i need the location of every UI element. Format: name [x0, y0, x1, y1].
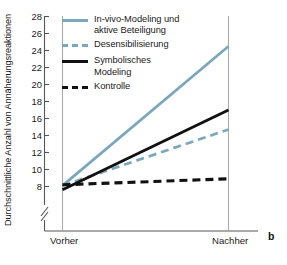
legend-label: Kontrolle	[94, 81, 130, 92]
legend-label-line: aktive Beteiligung	[94, 25, 179, 36]
legend-swatch-dashed-black-icon	[62, 82, 88, 94]
figure-panel: Durchschnittliche Anzahl von Annäherungs…	[0, 0, 287, 265]
y-axis-break-icon	[41, 207, 48, 221]
legend-swatch-solid-black-icon	[62, 56, 88, 68]
legend-label-line: Modeling	[94, 67, 151, 78]
legend-item-in-vivo-modeling: In-vivo-Modeling und aktive Beteiligung	[62, 14, 232, 36]
legend-label-line: Symbolisches	[94, 55, 151, 66]
series-line-kontrolle	[63, 179, 229, 185]
chart-legend: In-vivo-Modeling und aktive Beteiligung …	[62, 14, 232, 97]
legend-label-line: Desensibilisierung	[94, 39, 169, 50]
legend-label: Desensibilisierung	[94, 39, 169, 50]
panel-label: b	[268, 230, 274, 242]
series-line-symbolisches-modeling	[63, 110, 229, 190]
legend-label: In-vivo-Modeling und aktive Beteiligung	[94, 14, 179, 36]
y-tick-marks	[45, 17, 50, 187]
legend-swatch-solid-blue-icon	[62, 15, 88, 27]
x-tick-label-vorher: Vorher	[50, 236, 78, 246]
legend-label-line: Kontrolle	[94, 81, 130, 92]
legend-item-symbolisches-modeling: Symbolisches Modeling	[62, 55, 232, 77]
legend-item-kontrolle: Kontrolle	[62, 81, 232, 94]
legend-label-line: In-vivo-Modeling und	[94, 14, 179, 25]
legend-label: Symbolisches Modeling	[94, 55, 151, 77]
x-tick-label-nachher: Nachher	[212, 236, 248, 246]
legend-swatch-dashed-blue-icon	[62, 40, 88, 52]
legend-item-desensibilisierung: Desensibilisierung	[62, 39, 232, 52]
